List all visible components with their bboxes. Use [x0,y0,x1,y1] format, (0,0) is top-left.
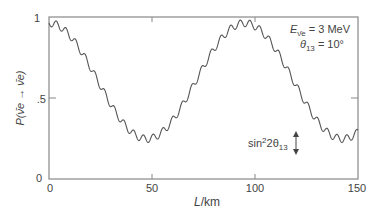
y-axis-label: P(ν̄e → ν̄e) [14,70,26,125]
x-tick-label-100: 100 [246,182,264,194]
amplitude-double-arrow-icon [293,131,299,155]
oscillation-probability-chart: 1 .5 0 0 50 100 150 L/km P(ν̄e → ν̄e) Eν… [0,0,381,215]
survival-probability-curve [49,20,358,143]
y-tick-label-1: 1 [34,12,40,24]
energy-annotation: Eν̄e = 3 MeV [290,23,351,38]
x-tick-label-150: 150 [348,182,366,194]
amplitude-annotation: sin22θ13 [248,136,288,152]
y-tick-label-0: 0 [36,172,42,184]
x-axis-ticks [152,17,255,179]
theta-annotation: θ13 = 10° [300,38,344,53]
y-tick-label-half: .5 [37,93,46,105]
x-tick-label-0: 0 [47,182,53,194]
x-tick-label-50: 50 [146,182,158,194]
plot-frame [49,17,358,179]
x-axis-label: L/km [194,195,220,209]
